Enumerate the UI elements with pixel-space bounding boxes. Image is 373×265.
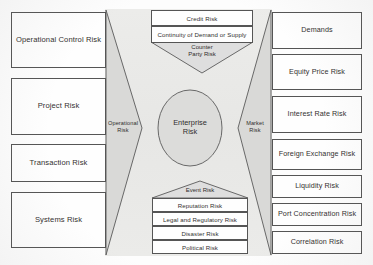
right-box-foreign-exchange-risk[interactable]: Foreign Exchange Risk: [272, 139, 362, 170]
top-row-credit-risk-label: Credit Risk: [185, 15, 220, 22]
enterprise-risk-diagram: Operational Risk Market Risk Enterprise …: [0, 0, 373, 265]
operational-risk-wedge-label: Operational Risk: [104, 120, 142, 133]
top-row-continuity-label: Continuity of Demand or Supply: [155, 31, 248, 38]
bottom-row-legal-and-regulatory-risk-label: Legal and Regulatory Risk: [161, 216, 239, 223]
event-risk-label: Event Risk: [170, 187, 230, 194]
right-box-equity-price-risk[interactable]: Equity Price Risk: [272, 54, 362, 90]
left-box-systems-risk[interactable]: Systems Risk: [11, 192, 106, 248]
enterprise-risk-label-line1: Enterprise: [158, 118, 222, 127]
bottom-row-legal-and-regulatory-risk[interactable]: Legal and Regulatory Risk: [152, 212, 248, 226]
counter-party-risk-label: Counter Party Risk: [172, 44, 232, 58]
left-box-project-risk[interactable]: Project Risk: [11, 78, 106, 135]
left-box-operational-control-risk[interactable]: Operational Control Risk: [11, 12, 106, 68]
right-box-correlation-risk[interactable]: Correlation Risk: [272, 231, 362, 254]
right-box-demands[interactable]: Demands: [272, 12, 362, 49]
right-box-correlation-risk-label: Correlation Risk: [289, 238, 346, 246]
top-row-credit-risk[interactable]: Credit Risk: [151, 10, 253, 26]
operational-risk-label-line2: Risk: [104, 127, 142, 134]
right-box-liquidity-risk[interactable]: Liquidity Risk: [272, 175, 362, 198]
left-box-transaction-risk[interactable]: Transaction Risk: [11, 144, 106, 182]
left-box-operational-control-risk-label: Operational Control Risk: [14, 36, 103, 45]
right-box-liquidity-risk-label: Liquidity Risk: [293, 182, 341, 190]
market-risk-label-line2: Risk: [238, 127, 272, 134]
right-box-foreign-exchange-risk-label: Foreign Exchange Risk: [277, 150, 357, 158]
right-box-port-concentration-risk[interactable]: Port Concentration Risk: [272, 203, 362, 226]
bottom-row-political-risk-label: Political Risk: [180, 244, 220, 251]
enterprise-risk-label-line2: Risk: [158, 127, 222, 136]
top-row-continuity-of-demand-or-supply[interactable]: Continuity of Demand or Supply: [151, 26, 253, 43]
counter-party-risk-label-line1: Counter: [172, 44, 232, 51]
enterprise-risk-label: Enterprise Risk: [158, 118, 222, 137]
left-box-systems-risk-label: Systems Risk: [33, 216, 84, 225]
left-box-project-risk-label: Project Risk: [36, 102, 82, 111]
event-risk-label-text: Event Risk: [170, 187, 230, 194]
right-box-interest-rate-risk[interactable]: Interest Rate Risk: [272, 96, 362, 133]
market-risk-label-line1: Market: [238, 120, 272, 127]
market-risk-wedge-label: Market Risk: [238, 120, 272, 133]
bottom-row-disaster-risk-label: Disaster Risk: [179, 230, 220, 237]
operational-risk-label-line1: Operational: [104, 120, 142, 127]
right-box-equity-price-risk-label: Equity Price Risk: [287, 68, 347, 76]
left-box-transaction-risk-label: Transaction Risk: [28, 159, 90, 168]
bottom-row-disaster-risk[interactable]: Disaster Risk: [152, 226, 248, 240]
counter-party-risk-label-line2: Party Risk: [172, 51, 232, 58]
bottom-row-political-risk[interactable]: Political Risk: [152, 240, 248, 254]
right-box-interest-rate-risk-label: Interest Rate Risk: [286, 110, 349, 118]
right-box-port-concentration-risk-label: Port Concentration Risk: [276, 210, 358, 218]
bottom-row-reputation-risk-label: Reputation Risk: [176, 202, 225, 209]
right-box-demands-label: Demands: [299, 26, 334, 34]
bottom-row-reputation-risk[interactable]: Reputation Risk: [152, 198, 248, 212]
